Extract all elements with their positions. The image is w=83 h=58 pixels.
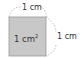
area-label: 1 cm2	[14, 32, 38, 43]
top-side-label: 1 cm	[22, 4, 42, 12]
area-label-exponent: 2	[35, 33, 38, 39]
right-side-label: 1 cm	[57, 33, 77, 41]
area-label-value: 1 cm	[14, 34, 35, 44]
right-dimension-arc	[46, 17, 56, 56]
